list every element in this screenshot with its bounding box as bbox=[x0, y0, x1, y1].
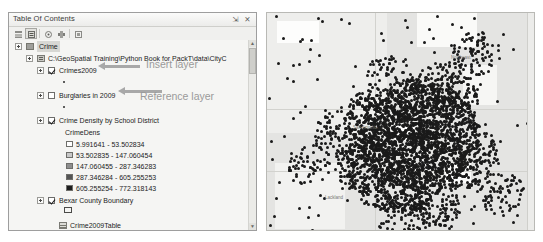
crime-point bbox=[321, 178, 324, 181]
crime-point bbox=[455, 130, 458, 133]
crime-point bbox=[418, 180, 421, 183]
crime-point bbox=[408, 228, 411, 231]
layer-visibility-checkbox-crimes2009[interactable] bbox=[48, 67, 55, 74]
crime-point bbox=[479, 83, 482, 86]
legend-label-1: 5.991641 - 53.502834 bbox=[76, 139, 145, 150]
crime-point bbox=[320, 142, 323, 145]
crime-point bbox=[498, 187, 501, 190]
expander-icon[interactable] bbox=[37, 92, 44, 99]
crime-point bbox=[452, 157, 455, 160]
expander-icon[interactable] bbox=[37, 67, 44, 74]
crime-point bbox=[355, 143, 358, 146]
crime-point bbox=[378, 156, 381, 159]
crime-point bbox=[334, 135, 337, 138]
crime-point bbox=[410, 41, 413, 44]
map-view[interactable]: Northeast San Antonio Lackland bbox=[266, 12, 535, 231]
layer-visibility-checkbox-burglaries[interactable] bbox=[48, 92, 55, 99]
list-by-source-button[interactable] bbox=[25, 28, 37, 39]
layer-visibility-checkbox-bexar[interactable] bbox=[48, 197, 55, 204]
expander-icon[interactable] bbox=[37, 117, 44, 124]
list-by-drawing-order-button[interactable] bbox=[12, 28, 24, 39]
crime-point bbox=[396, 180, 399, 183]
crime-point bbox=[436, 15, 439, 18]
crime-point bbox=[408, 102, 411, 105]
crime-point bbox=[354, 182, 357, 185]
crime-point bbox=[465, 38, 468, 41]
options-button[interactable] bbox=[72, 28, 84, 39]
crime-point bbox=[419, 73, 422, 76]
crime-point bbox=[466, 150, 469, 153]
crime-point bbox=[470, 71, 473, 74]
crime-point bbox=[482, 32, 485, 35]
crime-point bbox=[489, 190, 492, 193]
crime-point bbox=[497, 49, 500, 52]
list-by-selection-button[interactable] bbox=[55, 28, 67, 39]
layer-visibility-checkbox-crime-density[interactable] bbox=[48, 117, 55, 124]
crime-point bbox=[405, 135, 408, 138]
crime-point bbox=[358, 119, 361, 122]
crime-point bbox=[470, 63, 473, 66]
crime-point bbox=[388, 122, 391, 125]
crime-point bbox=[451, 218, 454, 221]
crime-point bbox=[436, 66, 439, 69]
crime-point bbox=[366, 159, 369, 162]
crime-point bbox=[505, 201, 508, 204]
expander-icon[interactable] bbox=[37, 197, 44, 204]
crime-point bbox=[379, 208, 382, 211]
crime-point bbox=[466, 168, 469, 171]
crime-point bbox=[418, 174, 421, 177]
crime-point bbox=[432, 134, 435, 137]
expander-icon[interactable] bbox=[15, 43, 22, 50]
crime-point bbox=[418, 91, 421, 94]
pin-icon[interactable]: ⇲ bbox=[231, 15, 240, 24]
crime-point bbox=[300, 152, 303, 155]
crime-point bbox=[409, 73, 412, 76]
crime-point bbox=[404, 222, 407, 225]
crime-point bbox=[411, 199, 414, 202]
list-by-visibility-button[interactable] bbox=[42, 28, 54, 39]
crime-point bbox=[490, 53, 493, 56]
crime-point bbox=[442, 162, 445, 165]
crime-point bbox=[409, 194, 412, 197]
crime-point bbox=[475, 168, 478, 171]
crime-point bbox=[415, 142, 418, 145]
crime-point bbox=[490, 199, 493, 202]
crime-point bbox=[382, 63, 385, 66]
close-icon[interactable]: ✕ bbox=[243, 15, 252, 24]
crime-point bbox=[378, 63, 381, 66]
crime-point bbox=[444, 157, 447, 160]
map-scrollbar-vertical[interactable] bbox=[527, 13, 534, 230]
crime-point bbox=[344, 169, 347, 172]
crime-point bbox=[451, 85, 454, 88]
crime-point bbox=[451, 183, 454, 186]
crime-point bbox=[317, 121, 320, 124]
crime-point bbox=[377, 136, 380, 139]
crime-point bbox=[366, 74, 369, 77]
scrollbar-thumb[interactable] bbox=[249, 48, 256, 74]
crime-point bbox=[418, 121, 421, 124]
crime-point bbox=[360, 114, 363, 117]
tree-label-crime-density: Crime Density by School District bbox=[59, 115, 159, 126]
crime-point bbox=[412, 224, 415, 227]
crime-point bbox=[475, 95, 478, 98]
expander-icon[interactable] bbox=[26, 55, 33, 62]
crime-point bbox=[473, 17, 476, 20]
crime-point bbox=[502, 214, 505, 217]
crime-point bbox=[413, 108, 416, 111]
scroll-down-arrow-icon[interactable]: ▼ bbox=[249, 223, 256, 230]
crime-point bbox=[379, 94, 382, 97]
crime-point bbox=[472, 168, 475, 171]
crime-point bbox=[377, 180, 380, 183]
crime-point bbox=[407, 166, 410, 169]
crime-point bbox=[374, 203, 377, 206]
crime-point bbox=[441, 129, 444, 132]
crime-point bbox=[491, 44, 494, 47]
crime-point bbox=[292, 64, 295, 67]
crime-point bbox=[424, 226, 427, 229]
crime-point bbox=[298, 207, 301, 210]
toc-scrollbar[interactable]: ▲ ▼ bbox=[248, 40, 256, 230]
scroll-up-arrow-icon[interactable]: ▲ bbox=[249, 40, 256, 47]
crime-point bbox=[376, 194, 379, 197]
crime-point bbox=[476, 50, 479, 53]
crime-point bbox=[454, 146, 457, 149]
